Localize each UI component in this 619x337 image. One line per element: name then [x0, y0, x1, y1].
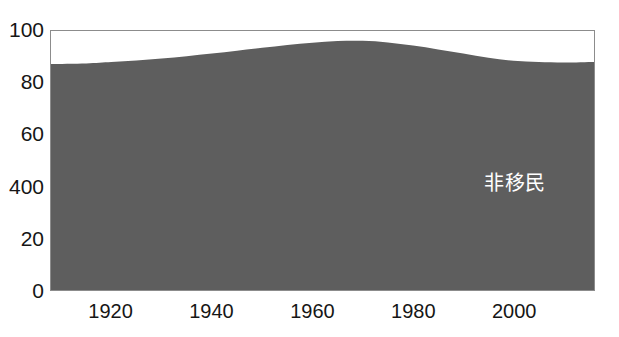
y-tick-40: 400: [0, 176, 44, 197]
x-tick-1960: 1960: [290, 300, 335, 322]
series-label-non-immigrant: 非移民: [484, 172, 546, 194]
y-tick-0: 0: [0, 280, 44, 301]
x-tick-2000: 2000: [492, 300, 537, 322]
y-axis: 1008060400200: [0, 0, 44, 337]
cropped-title-strip: [0, 0, 619, 9]
y-tick-100: 100: [0, 19, 44, 40]
x-tick-1940: 1940: [189, 300, 234, 322]
x-tick-1920: 1920: [88, 300, 133, 322]
x-axis: 19201940196019802000: [0, 300, 619, 330]
plot-area: [50, 30, 595, 291]
area-series-svg: [51, 31, 594, 290]
area-chart-figure: 非移民 1008060400200 19201940196019802000: [0, 0, 619, 337]
non-immigrant-area-path: [51, 41, 594, 290]
y-tick-20: 20: [0, 228, 44, 249]
y-tick-60: 60: [0, 123, 44, 144]
x-tick-1980: 1980: [391, 300, 436, 322]
y-tick-80: 80: [0, 71, 44, 92]
